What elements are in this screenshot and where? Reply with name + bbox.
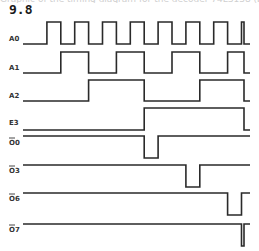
signal-o0: O0 [9,136,250,158]
waveform-e3 [23,108,250,130]
waveform-o0 [23,136,250,158]
waveform-a2 [23,80,250,101]
signals-layer: A0A1A2E3O0O3O6O7 [9,22,250,246]
signal-label-o7: O7 [9,226,20,234]
signal-label-a0: A0 [9,35,19,43]
signal-o3: O3 [9,165,250,187]
signal-label-e3: E3 [9,119,19,127]
signal-e3: E3 [9,108,250,130]
waveform-a1 [23,52,250,73]
signal-label-a2: A2 [9,92,19,100]
signal-a1: A1 [9,52,250,73]
waveform-o7 [23,224,250,246]
signal-a2: A2 [9,80,250,101]
signal-o7: O7 [9,224,250,246]
signal-label-a1: A1 [9,64,19,72]
waveform-o6 [23,193,250,215]
signal-label-o0: O0 [9,139,20,147]
signal-o6: O6 [9,193,250,215]
waveform-o3 [23,165,250,187]
timing-diagram: A0A1A2E3O0O3O6O7 [0,0,259,251]
signal-label-o3: O3 [9,167,20,175]
signal-a0: A0 [9,22,250,44]
signal-label-o6: O6 [9,195,20,203]
waveform-a0 [23,22,250,44]
